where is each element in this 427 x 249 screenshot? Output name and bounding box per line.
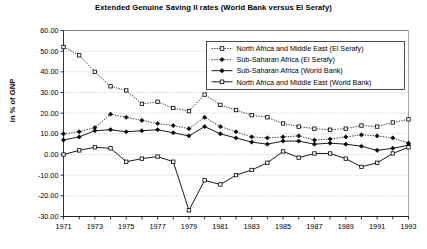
x-tick-label: 1977: [149, 222, 165, 231]
chart-plot-area: 60.0050.0040.0030.0020.0010.000.00-10.00…: [0, 0, 427, 249]
data-point: [62, 45, 65, 48]
x-tick-label: 1973: [87, 222, 103, 231]
series-line: [64, 147, 409, 210]
data-point: [109, 85, 112, 88]
chart-container: Extended Genuine Saving II rates (World …: [0, 0, 427, 249]
data-point: [220, 80, 224, 84]
data-point: [328, 137, 332, 141]
data-point: [234, 108, 237, 111]
legend-item-label: North Africa and Middle East (El Serafy): [237, 44, 364, 53]
data-point: [234, 173, 237, 176]
data-point: [359, 144, 363, 148]
x-tick-label: 1975: [118, 222, 134, 231]
data-point: [203, 93, 206, 96]
data-point: [219, 103, 222, 106]
legend-item-label: North Africa and Middle East (World Bank…: [237, 78, 372, 87]
legend-item-label: Sub-Saharan Africa (El Serafy): [237, 55, 335, 64]
y-tick-label: 10.00: [40, 129, 58, 138]
data-point: [297, 134, 301, 138]
data-point: [391, 121, 394, 124]
data-point: [297, 156, 300, 159]
x-tick-label: 1971: [55, 222, 71, 231]
data-point: [234, 136, 238, 140]
data-point: [313, 127, 316, 130]
chart-legend: North Africa and Middle East (El Serafy)…: [207, 42, 405, 90]
x-tick-label: 1979: [181, 222, 197, 231]
data-point: [140, 157, 143, 160]
data-point: [281, 139, 285, 143]
data-point: [297, 125, 300, 128]
data-point: [250, 135, 254, 139]
y-tick-label: -10.00: [38, 171, 59, 180]
data-point: [108, 128, 112, 132]
y-tick-label: -20.00: [38, 191, 59, 200]
data-point: [124, 130, 128, 134]
data-point: [109, 147, 112, 150]
data-point: [266, 161, 269, 164]
legend-item-label: Sub-Saharan Africa (World Bank): [237, 66, 343, 75]
data-point: [234, 130, 238, 134]
data-point: [218, 125, 222, 129]
data-point: [93, 146, 96, 149]
data-point: [375, 148, 379, 152]
data-point: [344, 142, 348, 146]
data-point: [219, 183, 222, 186]
y-tick-label: 40.00: [40, 67, 58, 76]
data-point: [297, 139, 301, 143]
data-point: [156, 100, 159, 103]
y-axis-ticks: 60.0050.0040.0030.0020.0010.000.00-10.00…: [38, 26, 64, 221]
data-point: [93, 70, 96, 73]
data-point: [250, 140, 254, 144]
x-tick-label: 1983: [244, 222, 260, 231]
x-tick-label: 1987: [306, 222, 322, 231]
data-point: [281, 135, 285, 139]
data-point: [391, 146, 395, 150]
data-point: [187, 127, 191, 131]
data-point: [359, 133, 363, 137]
data-point: [360, 124, 363, 127]
data-point: [77, 54, 80, 57]
x-tick-label: 1985: [275, 222, 291, 231]
data-point: [360, 165, 363, 168]
data-series: [61, 125, 410, 153]
data-point: [156, 155, 159, 158]
data-point: [250, 114, 253, 117]
data-point: [124, 115, 128, 119]
data-point: [328, 141, 332, 145]
data-point: [281, 122, 284, 125]
y-tick-label: 60.00: [40, 26, 58, 35]
data-point: [171, 131, 175, 135]
y-tick-label: 30.00: [40, 88, 58, 97]
data-point: [266, 116, 269, 119]
data-point: [391, 152, 394, 155]
data-point: [344, 135, 348, 139]
data-point: [187, 209, 190, 212]
data-point: [265, 136, 269, 140]
data-point: [125, 89, 128, 92]
data-point: [155, 121, 159, 125]
x-tick-label: 1981: [212, 222, 228, 231]
data-point: [407, 146, 410, 149]
data-point: [407, 118, 410, 121]
data-point: [220, 47, 224, 51]
data-point: [77, 130, 81, 134]
x-tick-label: 1989: [338, 222, 354, 231]
data-point: [265, 142, 269, 146]
data-point: [140, 129, 144, 133]
data-point: [140, 118, 144, 122]
data-point: [328, 152, 331, 155]
data-point: [312, 142, 316, 146]
data-point: [61, 132, 65, 136]
data-point: [391, 136, 395, 140]
data-point: [61, 138, 65, 142]
y-tick-label: 20.00: [40, 109, 58, 118]
data-point: [344, 127, 347, 130]
data-point: [77, 135, 81, 139]
y-tick-label: 0.00: [44, 150, 58, 159]
data-point: [155, 128, 159, 132]
data-point: [313, 152, 316, 155]
y-tick-label: -30.00: [38, 212, 59, 221]
data-point: [328, 128, 331, 131]
data-point: [93, 129, 97, 133]
x-axis-ticks: 1971197319751977197919811983198519871989…: [55, 217, 416, 231]
